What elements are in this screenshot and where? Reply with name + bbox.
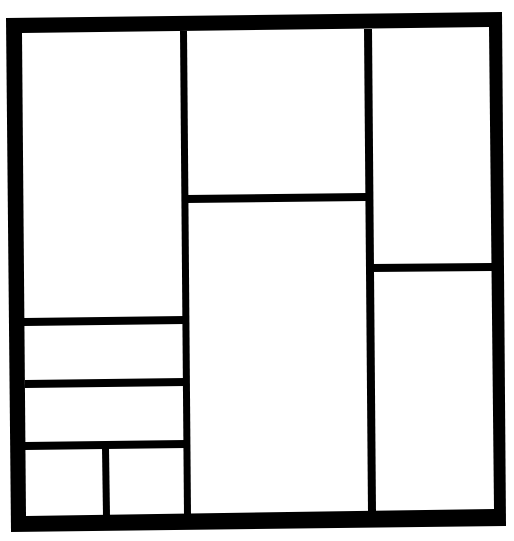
panel-6 <box>188 32 364 194</box>
panel-3 <box>25 388 184 440</box>
panel-9 <box>375 273 493 509</box>
gutter-right-horizontal <box>371 263 492 272</box>
panel-2 <box>25 326 183 378</box>
panel-8 <box>373 30 490 263</box>
panel-1 <box>24 34 180 316</box>
gutter-bottom-left-vertical <box>102 448 110 516</box>
panel-5 <box>110 450 185 514</box>
panel-7 <box>190 204 367 512</box>
panel-4 <box>26 450 102 514</box>
